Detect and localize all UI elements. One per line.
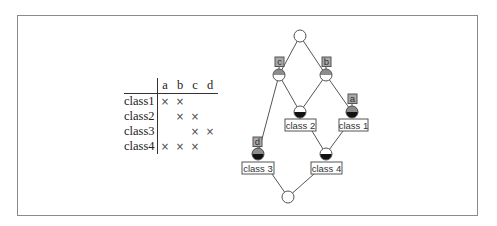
attribute-label-a: a	[348, 93, 357, 104]
concept-node-class4[interactable]	[320, 148, 332, 160]
svg-text:class 3: class 3	[243, 163, 273, 174]
concept-node-class2[interactable]	[294, 106, 306, 119]
svg-text:c: c	[277, 56, 282, 67]
attribute-label-c: c	[275, 56, 284, 67]
svg-text:a: a	[350, 93, 356, 104]
concept-node-class3[interactable]	[252, 147, 264, 161]
object-label-class4: class 4	[311, 162, 342, 174]
attribute-label-b: b	[322, 56, 331, 67]
svg-text:class 1: class 1	[339, 120, 369, 131]
attribute-label-d: d	[253, 136, 262, 147]
svg-text:d: d	[255, 136, 260, 147]
svg-text:class 4: class 4	[312, 163, 342, 174]
concept-lattice: c b class 2 a class 1 d	[0, 0, 497, 226]
top-concept-node[interactable]	[294, 30, 306, 42]
svg-text:b: b	[324, 56, 329, 67]
object-label-class1: class 1	[339, 119, 369, 131]
object-label-class2: class 2	[285, 119, 316, 131]
svg-text:class 2: class 2	[286, 120, 316, 131]
object-label-class3: class 3	[242, 162, 274, 174]
bottom-concept-node[interactable]	[282, 191, 294, 203]
